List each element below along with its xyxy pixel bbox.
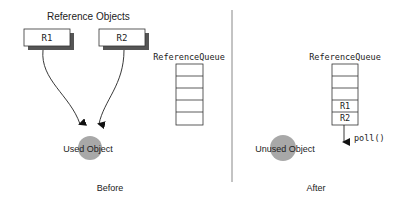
unused-object-label: Unused Object: [255, 144, 315, 154]
poll-label: poll(): [354, 133, 385, 143]
after-panel: ReferenceQueue R1 R2 poll() Unused Objec…: [255, 52, 384, 193]
after-queue-title: ReferenceQueue: [309, 52, 381, 62]
before-reference-queue: [176, 64, 203, 125]
used-object-label: Used Object: [63, 144, 113, 154]
r1-reference-arrow: [43, 50, 80, 124]
before-queue-title: ReferenceQueue: [153, 52, 225, 62]
r2-label: R2: [117, 33, 128, 43]
before-caption: Before: [97, 183, 124, 193]
reference-r2-box: R2: [99, 29, 149, 50]
r2-reference-arrow: [99, 50, 124, 124]
reference-queue-diagram: Reference Objects R1 R2 Used Object Refe…: [0, 0, 406, 201]
before-panel: Reference Objects R1 R2 Used Object Refe…: [24, 11, 225, 193]
reference-objects-heading: Reference Objects: [47, 11, 130, 22]
after-reference-queue: R1 R2: [332, 64, 358, 125]
queue-slot-r1: R1: [340, 101, 350, 111]
after-caption: After: [306, 183, 325, 193]
queue-slot-r2: R2: [340, 113, 350, 123]
r1-label: R1: [42, 33, 53, 43]
reference-r1-box: R1: [24, 29, 74, 50]
